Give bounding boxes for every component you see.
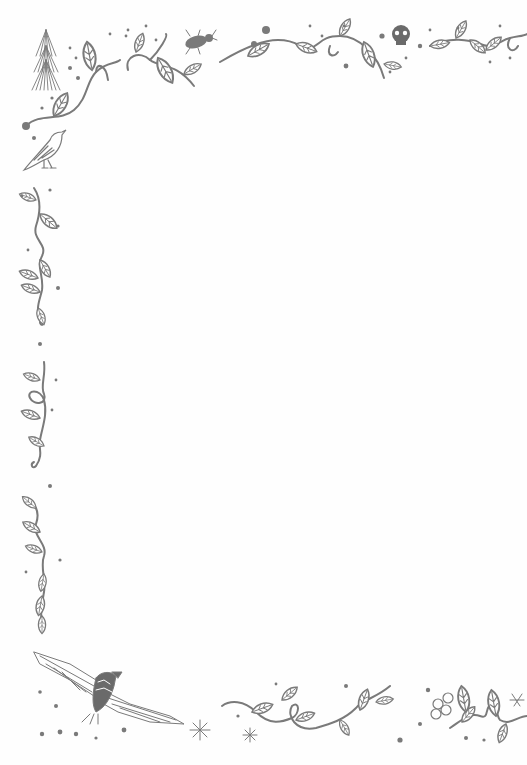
snowflake-icon (190, 720, 257, 742)
flower-icon (431, 693, 453, 719)
beetle-icon (185, 30, 217, 54)
vine-left-middle (20, 362, 46, 467)
butterfly-icon (510, 694, 524, 706)
skull-icon (392, 25, 410, 45)
pine-tree-icon (32, 30, 60, 90)
vine-left-upper (18, 188, 60, 326)
eagle-icon (34, 652, 184, 724)
stationery-page (0, 0, 527, 765)
scattered-dots (21, 25, 512, 743)
vine-left-lower (20, 494, 47, 634)
decorative-border (0, 0, 527, 765)
vine-top-right (429, 19, 527, 56)
songbird-icon (24, 130, 66, 170)
vine-bottom-right (450, 685, 527, 744)
vine-bottom-middle (222, 684, 394, 737)
